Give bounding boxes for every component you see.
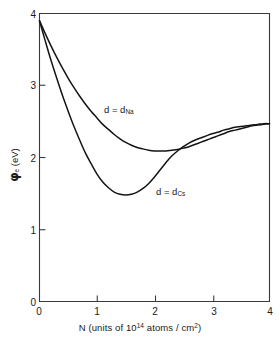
- y-tick-label-2: 2: [24, 153, 36, 164]
- y-axis-title: φe (eV): [7, 148, 21, 182]
- x-axis-title-suffix: ): [198, 322, 201, 333]
- y-tick-label-0: 0: [24, 297, 36, 308]
- curve-annotation-d-na: d = dNa: [104, 104, 134, 115]
- curve-annotation-d-cs: d = dCs: [156, 186, 185, 197]
- curve-d-na: [40, 21, 270, 151]
- x-axis-title: N (units of 1014 atoms / cm2): [79, 322, 201, 333]
- plot-canvas: [0, 0, 280, 347]
- x-axis-title-mid: atoms / cm: [144, 322, 194, 333]
- x-axis-ticks: [97, 296, 214, 302]
- curve-annotation-d-na-text: d = d: [104, 104, 125, 115]
- curve-annotation-d-cs-text: d = d: [156, 186, 177, 197]
- x-tick-label-1: 1: [94, 306, 100, 317]
- axes-frame: [39, 13, 270, 302]
- x-tick-label-3: 3: [211, 306, 217, 317]
- y-tick-label-3: 3: [24, 80, 36, 91]
- x-tick-label-4: 4: [267, 306, 273, 317]
- phi-symbol: φ: [7, 172, 21, 181]
- y-tick-label-4: 4: [24, 9, 36, 20]
- curve-annotation-d-cs-subscript: Cs: [177, 190, 185, 197]
- y-axis-ticks: [40, 85, 46, 230]
- curve-d-cs: [40, 21, 270, 195]
- x-tick-label-0: 0: [36, 306, 42, 317]
- chart-figure: 0 1 2 3 4 0 1 2 3 4 N (units of 1014 ato…: [0, 0, 280, 347]
- x-tick-label-2: 2: [152, 306, 158, 317]
- y-tick-label-1: 1: [24, 225, 36, 236]
- y-axis-title-unit: (eV): [9, 148, 20, 166]
- x-axis-title-prefix: N (units of 10: [79, 322, 137, 333]
- y-axis-title-subscript: e: [13, 169, 20, 173]
- curve-annotation-d-na-subscript: Na: [125, 108, 133, 115]
